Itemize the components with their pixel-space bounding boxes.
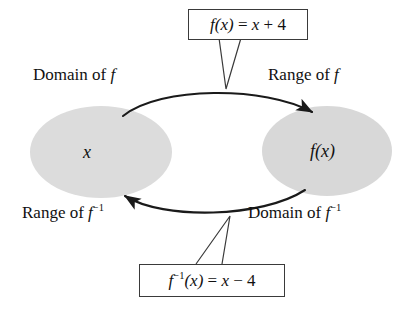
forward-function-expression-operator: + 4: [259, 15, 286, 34]
inverse-function-equation: f−1(x) = x − 4: [168, 272, 255, 289]
label-range-of-f-inverse: Range of f−1: [22, 204, 104, 221]
label-domain-of-f-inverse-exponent: −1: [330, 202, 341, 213]
forward-arrow: [123, 93, 312, 116]
forward-function-equals: =: [234, 15, 252, 34]
label-domain-of-f: Domain of f: [33, 66, 115, 83]
label-range-of-f-prefix: Range of: [268, 65, 334, 84]
forward-function-argument: (x): [215, 15, 234, 34]
right-set-element-label: f(x): [310, 142, 335, 160]
label-domain-of-f-symbol: f: [110, 65, 115, 84]
forward-callout-leader: [219, 38, 241, 89]
left-set-element-label: x: [83, 143, 91, 161]
function-inverse-diagram: Domain of f Range of f Range of f−1 Doma…: [0, 0, 419, 316]
inverse-function-argument: (x): [184, 271, 203, 290]
inverse-function-callout-box: f−1(x) = x − 4: [139, 264, 285, 297]
label-range-of-f-inverse-exponent: −1: [93, 202, 104, 213]
label-range-of-f-symbol: f: [334, 65, 339, 84]
inverse-function-expression-operator: − 4: [229, 271, 256, 290]
inverse-callout-leader: [196, 216, 230, 264]
forward-function-equation: f(x) = x + 4: [210, 16, 286, 33]
label-domain-of-f-inverse-prefix: Domain of: [248, 203, 325, 222]
inverse-function-expression-variable: x: [221, 271, 229, 290]
forward-function-callout-box: f(x) = x + 4: [188, 9, 308, 40]
label-range-of-f: Range of f: [268, 66, 339, 83]
label-domain-of-f-inverse: Domain of f−1: [248, 204, 341, 221]
inverse-function-equals: =: [203, 271, 221, 290]
inverse-function-exponent: −1: [173, 270, 184, 281]
label-range-of-f-inverse-prefix: Range of: [22, 203, 88, 222]
left-set-ellipse: [30, 106, 172, 198]
label-domain-of-f-prefix: Domain of: [33, 65, 110, 84]
